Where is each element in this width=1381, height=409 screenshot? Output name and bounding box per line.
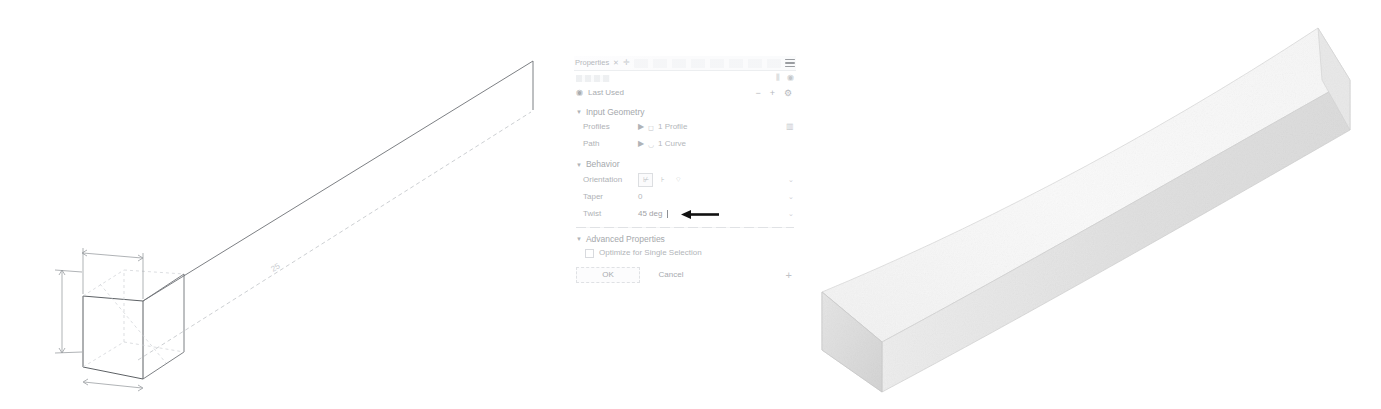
cursor-arrow-icon: ▶	[638, 140, 644, 149]
pin-icon[interactable]: ✛	[623, 59, 630, 68]
value-path: 1 Curve	[658, 140, 686, 149]
label-profiles: Profiles	[583, 123, 638, 132]
label-taper: Taper	[583, 193, 638, 202]
checkbox-label: Optimize for Single Selection	[599, 249, 702, 258]
text-cursor	[667, 210, 668, 218]
section-behavior: ▼ Behavior Orientation ⊬ ⊦ ⌔ ⌄ Taper 0	[574, 158, 796, 227]
row-twist[interactable]: Twist 45 deg ⌄	[574, 206, 796, 223]
curve-shape-icon: ◡	[648, 141, 654, 149]
section-header-input-geometry[interactable]: ▼ Input Geometry	[574, 106, 796, 119]
sweep-result-solid	[810, 20, 1381, 400]
optimize-single-selection-row[interactable]: Optimize for Single Selection	[574, 246, 796, 261]
chevron-down-icon[interactable]: ⌄	[788, 193, 794, 201]
visibility-icon[interactable]: ◉	[787, 74, 794, 83]
close-icon[interactable]: ✕	[613, 59, 619, 67]
dialog-button-row: OK Cancel +	[574, 267, 796, 283]
dialog-titlebar: Properties ✕ ✛	[574, 56, 796, 71]
expand-plus-icon[interactable]: +	[786, 269, 794, 281]
canvas-root: 25	[0, 0, 1381, 409]
label-twist: Twist	[583, 210, 638, 219]
row-taper[interactable]: Taper 0 ⌄	[574, 189, 796, 206]
hamburger-menu-icon[interactable]	[785, 59, 795, 67]
minus-icon[interactable]: −	[755, 89, 760, 99]
subheader-ghost-text	[576, 75, 610, 82]
annotation-arrow-icon	[681, 210, 721, 219]
ok-button[interactable]: OK	[576, 267, 640, 283]
row-orientation[interactable]: Orientation ⊬ ⊦ ⌔ ⌄	[574, 172, 796, 189]
chevron-down-icon[interactable]: ⌄	[788, 176, 794, 184]
section-input-geometry: ▼ Input Geometry Profiles ▶ ◻ 1 Profile …	[574, 106, 796, 153]
perpendicular-icon[interactable]: ⊬	[638, 173, 653, 187]
path-dimension-label: 25	[269, 261, 282, 274]
section-header-advanced-properties[interactable]: ▼ Advanced Properties	[574, 233, 796, 246]
gear-icon[interactable]: ⚙	[784, 89, 792, 99]
sweep-input-wireframe: 25	[0, 0, 560, 409]
section-header-behavior[interactable]: ▼ Behavior	[574, 158, 796, 171]
section-divider	[576, 227, 794, 228]
value-profiles: 1 Profile	[658, 123, 687, 132]
freeform-icon[interactable]: ⌔	[672, 174, 685, 186]
chevron-down-icon: ▼	[576, 109, 582, 116]
cursor-arrow-icon: ▶	[638, 123, 644, 132]
parallel-icon[interactable]: ⊦	[656, 174, 669, 186]
section-advanced-properties: ▼ Advanced Properties Optimize for Singl…	[574, 233, 796, 261]
cancel-button[interactable]: Cancel	[640, 268, 702, 282]
dialog-subheader: ⫼ ◉	[574, 71, 796, 86]
chevron-down-icon[interactable]: ⌄	[788, 210, 794, 218]
sweep-properties-dialog[interactable]: Properties ✕ ✛ ⫼ ◉ ◉ Last Used − + ⚙ ▼	[574, 56, 796, 283]
last-used-label: Last Used	[588, 89, 624, 98]
chevron-down-icon: ▼	[576, 162, 582, 169]
label-orientation: Orientation	[583, 176, 638, 185]
dialog-title: Properties	[575, 59, 609, 67]
chevron-down-icon: ▼	[576, 236, 582, 243]
profile-shape-icon: ◻	[648, 124, 654, 132]
taper-input[interactable]: 0	[638, 193, 642, 202]
section-title: Behavior	[586, 160, 620, 169]
twist-input[interactable]: 45 deg	[638, 210, 662, 219]
measure-icon[interactable]: ⫼	[776, 74, 780, 83]
titlebar-filler	[634, 59, 781, 68]
checkbox[interactable]	[585, 249, 594, 258]
label-path: Path	[583, 140, 638, 149]
select-profile-icon[interactable]: ▥	[786, 123, 794, 132]
plus-icon[interactable]: +	[770, 89, 775, 99]
row-path[interactable]: Path ▶ ◡ 1 Curve	[574, 136, 796, 153]
last-used-row[interactable]: ◉ Last Used − + ⚙	[574, 86, 796, 101]
section-title: Advanced Properties	[586, 235, 665, 244]
row-profiles[interactable]: Profiles ▶ ◻ 1 Profile ▥	[574, 119, 796, 136]
history-icon: ◉	[576, 89, 583, 98]
section-title: Input Geometry	[586, 108, 645, 117]
